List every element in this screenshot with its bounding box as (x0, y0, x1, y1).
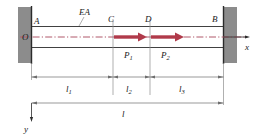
label-force-p1-subscript: 1 (130, 54, 133, 61)
right-wall-support (224, 6, 238, 64)
engineering-diagram-axially-loaded-bar: O A C D B EA x y P1 P2 l1 l2 (0, 0, 262, 134)
force-arrow-p2 (151, 32, 184, 41)
ea-leader-line (79, 17, 84, 26)
label-dimension-l-total: l (122, 109, 125, 119)
label-force-p2: P2 (160, 50, 171, 61)
force-arrow-p1 (114, 32, 147, 41)
label-dimension-l1-subscript: 1 (69, 88, 72, 95)
diagram-canvas: O A C D B EA x y P1 P2 l1 l2 (0, 0, 262, 134)
label-point-d: D (144, 14, 152, 24)
label-axial-rigidity: EA (78, 7, 90, 17)
label-dimension-l1: l1 (66, 84, 72, 95)
y-axis-arrow (30, 103, 33, 122)
label-point-a: A (33, 16, 40, 26)
label-x-axis: x (244, 42, 249, 52)
label-dimension-l3-subscript: 3 (181, 88, 186, 95)
label-dimension-l3: l3 (179, 84, 186, 95)
label-point-c: C (108, 14, 115, 24)
label-y-axis: y (23, 124, 28, 134)
label-force-p2-subscript: 2 (167, 54, 171, 61)
label-origin: O (22, 32, 29, 42)
label-dimension-l2-subscript: 2 (129, 88, 133, 95)
dimension-chain-segments (32, 63, 224, 80)
label-point-b: B (212, 14, 218, 24)
label-dimension-l2: l2 (126, 84, 133, 95)
label-force-p1: P1 (123, 50, 133, 61)
